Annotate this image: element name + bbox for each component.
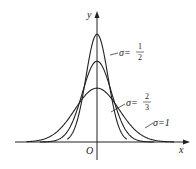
sigma-two-thirds-numerator: 2 bbox=[145, 92, 149, 101]
sigma-two-thirds-label: σ= bbox=[126, 97, 138, 108]
sigma-half-label: σ= bbox=[119, 47, 131, 58]
sigma-half-denominator: 2 bbox=[138, 53, 142, 62]
x-axis-label: x bbox=[178, 144, 184, 155]
sigma-half-numerator: 1 bbox=[138, 42, 142, 51]
curves-group bbox=[27, 34, 174, 142]
y-axis-arrow-icon bbox=[95, 11, 100, 18]
leader-line-sigma-half bbox=[110, 53, 118, 55]
sigma-one-label: σ=1 bbox=[153, 117, 170, 128]
y-axis-label: y bbox=[86, 9, 92, 20]
origin-label: O bbox=[86, 145, 93, 156]
sigma-two-thirds-denominator: 3 bbox=[145, 103, 149, 112]
leader-line-sigma-one bbox=[145, 123, 153, 128]
x-axis-arrow-icon bbox=[183, 140, 190, 145]
curve-sigma-1 bbox=[27, 88, 174, 142]
normal-curves-chart: x y O σ= 1 2 σ= 2 3 σ=1 bbox=[0, 0, 196, 169]
